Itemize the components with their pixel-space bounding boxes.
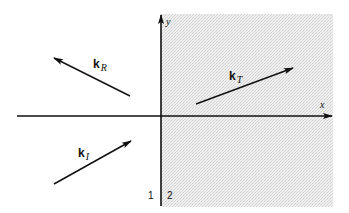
incident-vector-symbol: k	[78, 146, 85, 160]
y-axis-label: y	[166, 17, 170, 27]
incident-wave-vector-arrow	[54, 141, 131, 184]
incident-vector-label: kI	[78, 147, 89, 159]
diagram-canvas: y x kR kT kI 1 2	[0, 0, 349, 213]
incident-vector-subscript: I	[86, 151, 89, 162]
medium-2-region	[161, 14, 333, 207]
x-axis-label: x	[320, 100, 324, 110]
reflected-vector-symbol: k	[93, 57, 100, 71]
diagram-graphics	[0, 0, 349, 213]
medium-2-label: 2	[167, 191, 173, 201]
transmitted-vector-label: kT	[229, 70, 242, 82]
reflected-vector-subscript: R	[101, 62, 107, 73]
medium-1-label: 1	[148, 191, 154, 201]
transmitted-vector-subscript: T	[237, 74, 243, 85]
reflected-wave-vector-arrow	[54, 58, 130, 96]
transmitted-vector-symbol: k	[229, 69, 236, 83]
reflected-vector-label: kR	[93, 58, 107, 70]
